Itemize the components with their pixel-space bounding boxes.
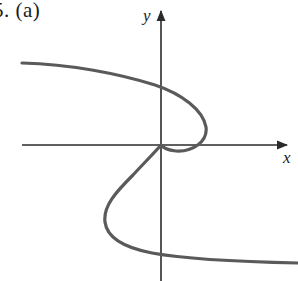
figure-container: 5. (a) y x: [0, 0, 298, 281]
graph-plot: y x: [0, 0, 298, 281]
x-axis-label: x: [282, 148, 291, 167]
y-axis-label: y: [141, 6, 151, 25]
curve-path: [22, 63, 298, 263]
